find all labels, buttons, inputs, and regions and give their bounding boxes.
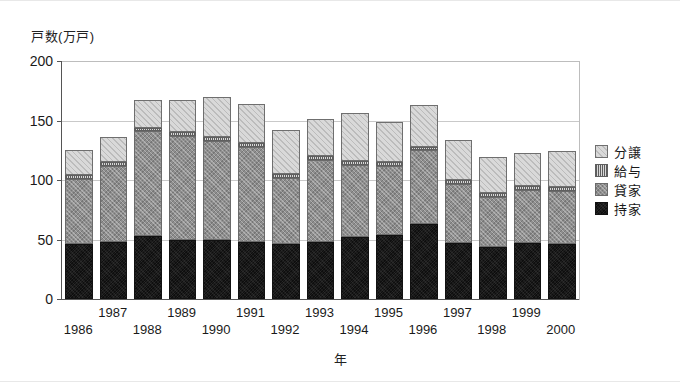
y-tick-mark-50: [57, 240, 62, 241]
y-tick-label-0: 0: [45, 291, 53, 307]
legend-item-bunjo: 分譲: [595, 143, 641, 160]
bar-segment-1999-kashiya: [514, 190, 542, 244]
bar-segment-1999-bunjo: [514, 153, 542, 186]
bar-segment-1996-bunjo: [410, 105, 438, 147]
chart-figure: 戸数(万戸) 050100150200 年 分譲給与貸家持家 198619871…: [0, 0, 680, 382]
y-tick-mark-0: [57, 299, 62, 300]
bar-segment-1986-kyuyo: [65, 175, 93, 179]
bar-segment-1988-kashiya: [134, 131, 162, 236]
x-tick-label-1989: 1989: [167, 305, 196, 320]
bar-segment-1998-kyuyo: [479, 193, 507, 197]
bar-1989: [169, 100, 197, 299]
bar-2000: [548, 151, 576, 299]
bar-segment-1994-kyuyo: [341, 161, 369, 165]
bar-segment-1996-mochiie: [410, 224, 438, 299]
bar-segment-1989-mochiie: [169, 240, 197, 300]
bar-segment-1987-bunjo: [100, 137, 128, 162]
bar-segment-2000-kyuyo: [548, 187, 576, 191]
bar-segment-1995-kyuyo: [376, 162, 404, 166]
x-tick-label-1990: 1990: [202, 322, 231, 337]
bar-segment-1995-kashiya: [376, 166, 404, 235]
bar-segment-1993-kyuyo: [307, 156, 335, 160]
bar-1998: [479, 157, 507, 299]
bar-segment-1987-kyuyo: [100, 162, 128, 166]
bar-segment-1995-mochiie: [376, 235, 404, 299]
bar-segment-1988-kyuyo: [134, 128, 162, 132]
bar-segment-1992-kyuyo: [272, 174, 300, 178]
x-tick-label-1996: 1996: [408, 322, 437, 337]
bar-1987: [100, 137, 128, 299]
bar-1991: [238, 104, 266, 299]
y-axis-title: 戸数(万戸): [31, 26, 95, 45]
bar-segment-1992-kashiya: [272, 178, 300, 245]
bar-segment-1991-bunjo: [238, 104, 266, 143]
bar-segment-1998-bunjo: [479, 157, 507, 193]
bar-segment-1991-mochiie: [238, 242, 266, 299]
y-tick-mark-200: [57, 61, 62, 62]
legend-label-kashiya: 貸家: [614, 180, 641, 199]
bar-segment-1997-mochiie: [445, 243, 473, 299]
bar-segment-1999-mochiie: [514, 243, 542, 299]
bar-segment-1992-mochiie: [272, 244, 300, 299]
legend-label-kyuyo: 給与: [614, 161, 641, 180]
bar-segment-2000-kashiya: [548, 191, 576, 245]
x-tick-label-1998: 1998: [477, 322, 506, 337]
bar-segment-1996-kyuyo: [410, 147, 438, 151]
bar-segment-1990-kyuyo: [203, 137, 231, 141]
bar-segment-1989-kashiya: [169, 136, 197, 240]
x-tick-label-1993: 1993: [305, 305, 334, 320]
bar-1993: [307, 119, 335, 299]
bar-1992: [272, 130, 300, 299]
legend-swatch-kashiya-icon: [595, 183, 608, 196]
bar-segment-1999-kyuyo: [514, 186, 542, 190]
bar-segment-1988-mochiie: [134, 236, 162, 299]
bar-segment-1990-bunjo: [203, 97, 231, 137]
bar-1988: [134, 100, 162, 299]
bar-1996: [410, 105, 438, 299]
x-tick-label-1997: 1997: [443, 305, 472, 320]
bar-segment-1994-mochiie: [341, 237, 369, 299]
x-tick-label-1999: 1999: [512, 305, 541, 320]
bar-segment-1997-kyuyo: [445, 180, 473, 184]
bar-segment-1993-mochiie: [307, 242, 335, 299]
bar-segment-1991-kyuyo: [238, 143, 266, 147]
legend-swatch-kyuyo-icon: [595, 164, 608, 177]
bar-segment-1993-bunjo: [307, 119, 335, 156]
bar-segment-1993-kashiya: [307, 160, 335, 242]
y-tick-label-200: 200: [30, 53, 53, 69]
bar-1995: [376, 122, 404, 299]
bar-segment-1996-kashiya: [410, 150, 438, 224]
x-tick-label-1995: 1995: [374, 305, 403, 320]
x-tick-label-1986: 1986: [64, 322, 93, 337]
x-axis-title: 年: [0, 349, 680, 368]
bar-segment-1998-mochiie: [479, 247, 507, 299]
bar-segment-1989-bunjo: [169, 100, 197, 132]
bar-segment-1986-kashiya: [65, 179, 93, 244]
x-tick-label-2000: 2000: [546, 322, 575, 337]
plot-area: 050100150200: [61, 61, 579, 300]
x-tick-label-1992: 1992: [271, 322, 300, 337]
bar-segment-1989-kyuyo: [169, 132, 197, 136]
bar-segment-1997-kashiya: [445, 184, 473, 244]
x-tick-label-1988: 1988: [133, 322, 162, 337]
bar-segment-2000-bunjo: [548, 151, 576, 187]
bar-segment-1990-kashiya: [203, 141, 231, 240]
y-tick-mark-150: [57, 121, 62, 122]
bar-segment-1991-kashiya: [238, 147, 266, 242]
y-tick-label-100: 100: [30, 172, 53, 188]
legend-swatch-mochiie-icon: [595, 202, 608, 215]
bar-segment-1987-mochiie: [100, 242, 128, 299]
legend-label-bunjo: 分譲: [614, 142, 641, 161]
x-tick-label-1987: 1987: [98, 305, 127, 320]
bar-segment-1994-kashiya: [341, 165, 369, 238]
bar-segment-1987-kashiya: [100, 166, 128, 242]
bar-segment-1997-bunjo: [445, 140, 473, 180]
legend-label-mochiie: 持家: [614, 199, 641, 218]
y-tick-label-150: 150: [30, 113, 53, 129]
x-tick-label-1994: 1994: [339, 322, 368, 337]
bar-segment-1994-bunjo: [341, 113, 369, 161]
bar-segment-1986-mochiie: [65, 244, 93, 299]
bar-segment-1990-mochiie: [203, 240, 231, 300]
bar-1999: [514, 153, 542, 299]
bar-segment-1986-bunjo: [65, 150, 93, 175]
